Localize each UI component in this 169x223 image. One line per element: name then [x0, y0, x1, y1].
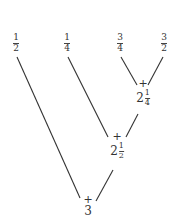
numerator: 1: [13, 33, 19, 42]
edge-leaf1-root: [17, 57, 80, 198]
node-value: 2 1 4: [136, 89, 150, 107]
numerator: 1: [119, 142, 124, 150]
fraction-part: 1 2: [119, 142, 124, 160]
numerator: 3: [161, 33, 167, 42]
edge-leaf2-node2: [68, 57, 108, 137]
edge-leaf4-node1: [148, 57, 163, 85]
denominator: 2: [119, 152, 124, 160]
sum-node: + 2 1 2: [110, 131, 124, 160]
tree-edges: [0, 0, 169, 223]
node-value: 3: [83, 205, 92, 217]
whole-part: 2: [136, 92, 144, 104]
denominator: 2: [13, 44, 19, 53]
leaf-fraction: 3 2: [161, 33, 167, 53]
numerator: 3: [117, 33, 123, 42]
denominator: 4: [117, 44, 123, 53]
whole-part: 2: [110, 145, 118, 157]
edge-node2-root: [96, 170, 113, 201]
leaf-fraction: 3 4: [117, 33, 123, 53]
numerator: 1: [64, 33, 70, 42]
edge-node1-node2: [126, 114, 138, 137]
root-sum-node: + 3: [83, 194, 92, 217]
sum-node: + 2 1 4: [136, 78, 150, 107]
whole-part: 3: [84, 205, 92, 217]
leaf-fraction: 1 4: [64, 33, 70, 53]
fraction-part: 1 4: [145, 89, 150, 107]
edge-leaf3-node1: [121, 57, 137, 85]
leaf-fraction: 1 2: [13, 33, 19, 53]
numerator: 1: [145, 89, 150, 97]
node-value: 2 1 2: [110, 142, 124, 160]
denominator: 4: [64, 44, 70, 53]
denominator: 4: [145, 99, 150, 107]
denominator: 2: [161, 44, 167, 53]
